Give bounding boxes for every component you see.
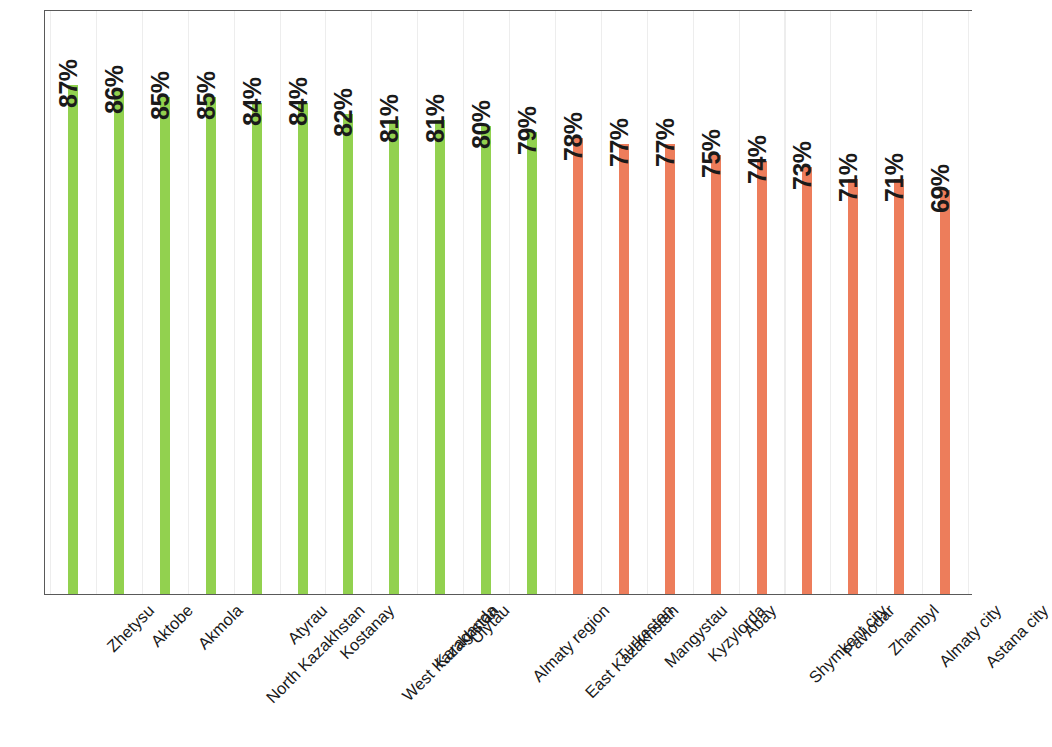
bar[interactable]: [68, 85, 78, 594]
bar[interactable]: [848, 179, 858, 594]
bar[interactable]: [252, 103, 262, 594]
plot-area: 87%86%85%85%84%84%82%81%81%80%79%78%77%7…: [44, 10, 972, 595]
bar[interactable]: [940, 190, 950, 594]
bar-value-label: 71%: [834, 153, 863, 202]
bar-value-label: 80%: [467, 100, 496, 149]
bar-value-label: 79%: [513, 106, 542, 155]
bar[interactable]: [343, 114, 353, 594]
bar-value-label: 84%: [238, 77, 267, 126]
category-label: Zhetysu: [103, 601, 158, 656]
bar-value-label: 85%: [192, 71, 221, 120]
bar-value-label: 77%: [605, 118, 634, 167]
bar[interactable]: [527, 132, 537, 594]
bar-value-label: 75%: [697, 130, 726, 179]
bar[interactable]: [573, 138, 583, 594]
bar[interactable]: [894, 179, 904, 594]
bar[interactable]: [389, 120, 399, 594]
bar[interactable]: [665, 144, 675, 594]
bar-value-label: 87%: [54, 60, 83, 109]
bar[interactable]: [757, 161, 767, 594]
bar[interactable]: [802, 167, 812, 594]
bar[interactable]: [435, 120, 445, 594]
bar-value-label: 74%: [743, 136, 772, 185]
bar-value-label: 81%: [375, 95, 404, 144]
bar[interactable]: [206, 97, 216, 594]
bar-value-label: 78%: [559, 112, 588, 161]
bar[interactable]: [481, 126, 491, 594]
category-label: Aktobe: [147, 601, 197, 651]
bar-value-label: 73%: [788, 141, 817, 190]
bar[interactable]: [160, 97, 170, 594]
bar-value-label: 86%: [100, 65, 129, 114]
bar-value-label: 82%: [329, 89, 358, 138]
category-label: Akmola: [194, 601, 246, 653]
bar-value-label: 84%: [284, 77, 313, 126]
bar[interactable]: [114, 91, 124, 594]
bars-layer: 87%86%85%85%84%84%82%81%81%80%79%78%77%7…: [45, 11, 972, 594]
category-axis-labels: ZhetysuAktobeAkmolaNorth KazakhstanAtyra…: [0, 595, 965, 747]
bar[interactable]: [298, 103, 308, 594]
bar-value-label: 81%: [421, 95, 450, 144]
bar-value-label: 85%: [146, 71, 175, 120]
bar-value-label: 69%: [926, 165, 955, 214]
bar[interactable]: [619, 144, 629, 594]
bar[interactable]: [711, 155, 721, 594]
bar-value-label: 71%: [880, 153, 909, 202]
bar-value-label: 77%: [651, 118, 680, 167]
